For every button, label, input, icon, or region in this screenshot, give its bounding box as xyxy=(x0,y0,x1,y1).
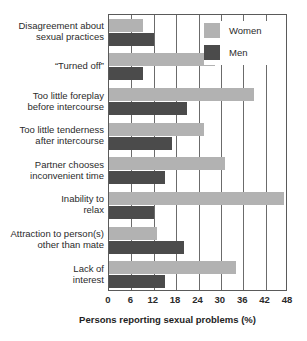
legend-item[interactable]: Women xyxy=(204,21,284,39)
category-label: Attraction to person(s) other than mate xyxy=(0,228,104,250)
bar-chart: Disagreement about sexual practices“Turn… xyxy=(0,0,307,341)
x-tick-label: 6 xyxy=(128,294,133,305)
bar-men xyxy=(109,241,184,254)
bar-women xyxy=(109,227,157,240)
bar-group xyxy=(109,227,286,254)
x-tick-label: 12 xyxy=(147,294,158,305)
bar-women xyxy=(109,123,204,136)
category-label: Inability to relax xyxy=(0,193,104,215)
legend-swatch-women xyxy=(204,23,220,38)
bar-women xyxy=(109,53,215,66)
bar-men xyxy=(109,206,154,219)
bar-women xyxy=(109,88,254,101)
bar-group xyxy=(109,157,286,184)
bar-group xyxy=(109,123,286,150)
legend-swatch-men xyxy=(204,45,220,60)
x-tick-label: 30 xyxy=(215,294,226,305)
category-label: “Turned off” xyxy=(0,60,104,71)
bar-women xyxy=(109,261,236,274)
x-tick-label: 48 xyxy=(282,294,293,305)
bar-women xyxy=(109,157,225,170)
bar-women xyxy=(109,192,284,205)
legend-label: Men xyxy=(229,47,247,58)
bar-group xyxy=(109,261,286,288)
bar-group xyxy=(109,88,286,115)
bar-men xyxy=(109,275,165,288)
category-axis-labels: Disagreement about sexual practices“Turn… xyxy=(0,14,104,291)
bar-men xyxy=(109,67,143,80)
bar-women xyxy=(109,19,143,32)
legend-item[interactable]: Men xyxy=(204,43,284,61)
category-label: Too little tenderness after intercourse xyxy=(0,124,104,146)
legend: WomenMen xyxy=(204,21,284,65)
x-tick-label: 0 xyxy=(105,294,110,305)
bar-men xyxy=(109,137,172,150)
bar-men xyxy=(109,33,154,46)
category-label: Disagreement about sexual practices xyxy=(0,20,104,42)
bar-men xyxy=(109,171,165,184)
category-label: Too little foreplay before intercourse xyxy=(0,90,104,112)
x-axis-tick-labels: 0612182430364248 xyxy=(108,292,287,306)
x-tick-label: 42 xyxy=(259,294,270,305)
x-axis-title: Persons reporting sexual problems (%) xyxy=(0,314,307,325)
category-label: Partner chooses inconvenient time xyxy=(0,159,104,181)
x-tick-label: 18 xyxy=(170,294,181,305)
bar-men xyxy=(109,102,187,115)
x-tick-label: 24 xyxy=(192,294,203,305)
x-tick-label: 36 xyxy=(237,294,248,305)
category-label: Lack of interest xyxy=(0,263,104,285)
bar-group xyxy=(109,192,286,219)
legend-label: Women xyxy=(229,25,262,36)
